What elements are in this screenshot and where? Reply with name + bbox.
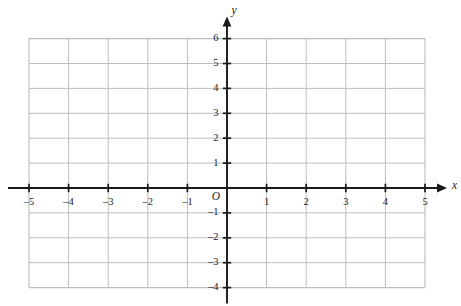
x-tick-label: 5 — [422, 196, 427, 207]
y-axis-label: y — [230, 4, 237, 17]
y-tick-label: 5 — [213, 57, 218, 68]
y-tick-label: –3 — [207, 256, 219, 267]
y-tick-label: 4 — [213, 82, 219, 93]
y-tick-label: 1 — [213, 157, 218, 168]
coordinate-grid-svg: –5–4–3–2–112345 –4–3–2–1123456 x y O — [0, 0, 461, 306]
y-tick-label: –4 — [207, 281, 219, 292]
x-tick-label: –1 — [181, 196, 193, 207]
x-tick-label: 4 — [383, 196, 389, 207]
y-tick-label: –2 — [207, 231, 219, 242]
y-tick-label: 2 — [213, 132, 218, 143]
x-tick-label: –4 — [62, 196, 74, 207]
x-tick-label: –2 — [142, 196, 154, 207]
plot-background — [0, 0, 461, 306]
x-tick-label: 1 — [264, 196, 269, 207]
x-axis-label: x — [451, 179, 458, 191]
x-tick-label: –5 — [23, 196, 35, 207]
x-tick-label: –3 — [102, 196, 114, 207]
x-tick-label: 2 — [304, 196, 309, 207]
y-tick-label: 6 — [213, 32, 218, 43]
y-tick-label: –1 — [207, 206, 219, 217]
origin-label: O — [212, 190, 221, 202]
x-tick-label: 3 — [343, 196, 348, 207]
y-tick-label: 3 — [213, 107, 218, 118]
coordinate-plane-figure: –5–4–3–2–112345 –4–3–2–1123456 x y O — [0, 0, 461, 306]
